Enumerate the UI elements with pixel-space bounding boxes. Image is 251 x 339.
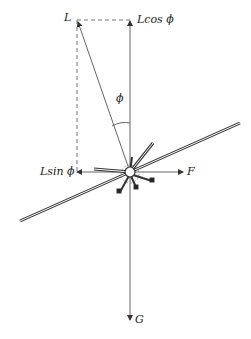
label-lsin: Lsin ϕ bbox=[40, 165, 75, 178]
label-angle: ϕ bbox=[116, 92, 124, 105]
angle-arc bbox=[112, 122, 130, 126]
force-diagram: L Lcos ϕ ϕ Lsin ϕ F G bbox=[0, 0, 251, 339]
label-f: F bbox=[187, 165, 195, 178]
label-lcos: Lcos ϕ bbox=[137, 13, 174, 26]
diagram-svg bbox=[0, 0, 251, 339]
label-g: G bbox=[135, 313, 144, 326]
label-lift: L bbox=[64, 11, 71, 24]
